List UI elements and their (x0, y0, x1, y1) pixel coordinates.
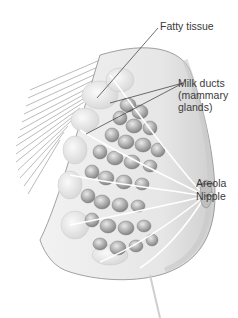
anatomy-illustration (0, 0, 238, 318)
label-areola: Areola (196, 177, 226, 189)
label-nipple: Nipple (196, 190, 226, 202)
label-milk-ducts: Milk ducts (mammary glands) (178, 77, 228, 113)
chest-wall (150, 275, 160, 318)
label-fatty-tissue: Fatty tissue (160, 20, 214, 32)
breast-anatomy-diagram: Fatty tissue Milk ducts (mammary glands)… (0, 0, 238, 318)
